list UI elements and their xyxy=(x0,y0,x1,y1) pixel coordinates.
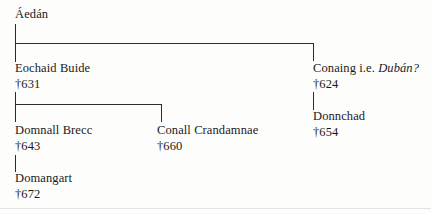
person-node-conaing: Conaing i.e. Dubán? †624 xyxy=(313,60,419,93)
person-death-date: †654 xyxy=(313,124,365,140)
person-node-domangart: Domangart †672 xyxy=(15,170,72,203)
connector-conall-drop xyxy=(161,104,162,122)
person-node-donnchad: Donnchad †654 xyxy=(313,108,365,141)
person-death-date: †631 xyxy=(15,76,90,92)
person-death-date: †660 xyxy=(157,138,258,154)
person-node-conall-crandamnae: Conall Crandamnae †660 xyxy=(157,122,258,155)
person-name: Áedán xyxy=(15,6,48,22)
person-name: Conall Crandamnae xyxy=(157,122,258,138)
person-name: Donnchad xyxy=(313,108,365,124)
person-name: Domnall Brecc xyxy=(15,122,92,138)
person-death-date: †672 xyxy=(15,186,72,202)
person-alias: Dubán? xyxy=(378,61,419,75)
person-death-date: †643 xyxy=(15,138,92,154)
connector-conaing-drop xyxy=(313,43,314,61)
person-name-line: Conaing i.e. Dubán? xyxy=(313,60,419,76)
person-name: Domangart xyxy=(15,170,72,186)
person-death-date: †624 xyxy=(313,76,419,92)
connector-aedan-branch-bar xyxy=(15,43,314,44)
person-node-aedan: Áedán xyxy=(15,6,48,22)
person-node-eochaid-buide: Eochaid Buide †631 xyxy=(15,60,90,93)
person-name: Eochaid Buide xyxy=(15,60,90,76)
connector-eochaid-branch-bar xyxy=(15,104,162,105)
genealogy-chart: Áedán Eochaid Buide †631 Conaing i.e. Du… xyxy=(0,0,431,214)
connector-eochaid-stem xyxy=(15,92,16,122)
person-node-domnall-brecc: Domnall Brecc †643 xyxy=(15,122,92,155)
page-edge-rule xyxy=(0,208,431,209)
person-name: Conaing i.e. xyxy=(313,61,378,75)
